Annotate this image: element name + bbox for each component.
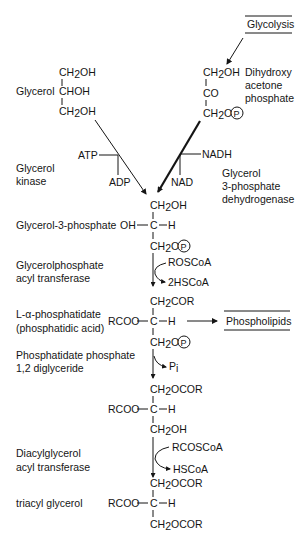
dhap-label-2: acetone	[245, 79, 283, 91]
dehydrogenase-cofactors: NADH NAD Glycerol 3-phosphate dehydrogen…	[171, 148, 295, 205]
phosphate-symbol: P	[234, 109, 240, 119]
phospholipids-text: Phospholipids	[226, 315, 291, 327]
dhap-line-2: CO	[203, 87, 219, 99]
dg-bottom: CH2OH	[150, 423, 187, 437]
tag-bottom: CH2OCOR	[150, 518, 203, 532]
tag-right: H	[168, 497, 176, 509]
phosphate-symbol: P	[181, 338, 187, 348]
hscoa-label: HSCoA	[173, 463, 208, 475]
phosphate-symbol: P	[181, 242, 187, 252]
pa-label-2: (phosphatidic acid)	[16, 322, 104, 334]
pap-label-1: Phosphatidate phosphate	[16, 349, 135, 361]
dg-right: H	[168, 403, 176, 415]
glycerol-structure: Glycerol CH2OH CHOH CH2OH	[16, 66, 96, 119]
side-arrow	[155, 447, 170, 469]
phospholipids-label: Phospholipids	[224, 311, 291, 330]
pa-label-1: L-α-phosphatidate	[16, 308, 101, 320]
pa-right: H	[168, 315, 176, 327]
roscoa-label: ROSCoA	[168, 256, 211, 268]
rcoscoa-label: RCOSCoA	[172, 441, 223, 453]
g3p-label: Glycerol-3-phosphate	[16, 219, 117, 231]
tag-center: C	[150, 497, 158, 509]
g3p-bottom: CH2O	[150, 240, 179, 254]
g3p-center: C	[150, 219, 158, 231]
g3p-right: H	[168, 219, 176, 231]
glycolysis-text: Glycolysis	[247, 18, 294, 30]
acyl-transferase-step-1: ROSCoA 2HSCoA Glycerolphosphate acyl tra…	[16, 253, 211, 288]
dehydrogenase-label-3: dehydrogenase	[222, 193, 295, 205]
pa-left: RCOO	[108, 315, 140, 327]
glycerol-line-2: CHOH	[59, 85, 90, 97]
side-arrow	[155, 263, 166, 282]
tag-top: CH2OCOR	[150, 477, 203, 491]
g3p-top: CH2OH	[150, 199, 187, 213]
dhap-line-1: CH2OH	[203, 66, 240, 80]
dhap-line-3: CH2O	[203, 107, 232, 121]
g3p-left: OH	[120, 219, 136, 231]
pi-label: Pi	[169, 360, 178, 374]
glycerol-line-1: CH2OH	[59, 66, 96, 80]
glycolysis-label: Glycolysis	[245, 16, 294, 33]
dg-top: CH2OCOR	[150, 383, 203, 397]
adp-label: ADP	[109, 176, 131, 188]
glycerol-kinase-cofactors: ATP ADP Glycerol kinase	[16, 149, 131, 188]
dg-center: C	[150, 403, 158, 415]
glycolysis-arrow	[227, 38, 243, 64]
glycerol-kinase-label-1: Glycerol	[16, 162, 55, 174]
tag-left: RCOO	[108, 497, 140, 509]
tag-label: triacyl glycerol	[16, 497, 83, 509]
gpat-label-2: acyl transferase	[16, 272, 90, 284]
dgat-label-1: Diacylglycerol	[16, 447, 81, 459]
dg-left: RCOO	[108, 403, 140, 415]
glycerol-kinase-label-2: kinase	[16, 175, 47, 187]
triacylglycerol-structure: triacyl glycerol CH2OCOR RCOO C H CH2OCO…	[16, 477, 203, 532]
pa-center: C	[150, 315, 158, 327]
pa-top: CH2COR	[150, 295, 195, 309]
nadh-label: NADH	[202, 148, 232, 160]
dhap-structure: CH2OH CO CH2O P Dihydroxy acetone phosph…	[203, 66, 294, 121]
gpat-label-1: Glycerolphosphate	[16, 259, 104, 271]
glycerol-label: Glycerol	[16, 85, 55, 97]
dgat-label-2: acyl transferase	[16, 461, 90, 473]
diglyceride-structure: CH2OCOR RCOO C H CH2OH	[108, 383, 203, 437]
side-arrow	[154, 356, 166, 367]
acyl-transferase-step-2: RCOSCoA HSCoA Diacylglycerol acyl transf…	[16, 437, 223, 477]
pa-bottom: CH2O	[150, 336, 179, 350]
atp-label: ATP	[78, 149, 98, 161]
glycerol-3-phosphate-structure: Glycerol-3-phosphate CH2OH OH C H CH2O P	[16, 199, 190, 254]
pap-label-2: 1,2 diglyceride	[16, 362, 84, 374]
dehydrogenase-label-1: Glycerol	[222, 167, 261, 179]
pathway-diagram: Glycolysis Glycerol CH2OH CHOH CH2OH CH2…	[0, 0, 303, 540]
2hscoa-label: 2HSCoA	[168, 276, 209, 288]
nad-label: NAD	[171, 176, 194, 188]
glycerol-line-3: CH2OH	[59, 105, 96, 119]
dhap-label-1: Dihydroxy	[245, 66, 292, 78]
phosphatase-step: Pi Phosphatidate phosphate 1,2 diglyceri…	[16, 349, 178, 378]
phosphatidic-acid-structure: L-α-phosphatidate (phosphatidic acid) CH…	[16, 295, 195, 350]
dehydrogenase-label-2: 3-phosphate	[222, 180, 281, 192]
dhap-label-3: phosphate	[245, 92, 294, 104]
